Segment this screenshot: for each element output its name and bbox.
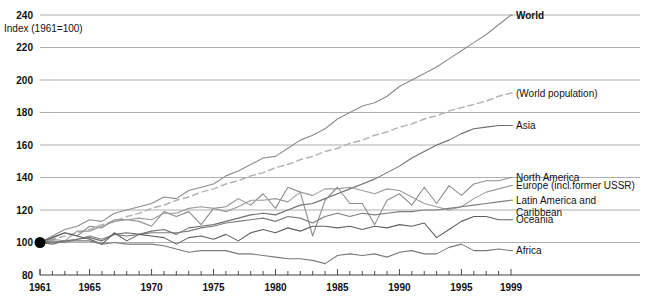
- line-chart-svg: 24022020018016014012010080 1961196519701…: [0, 0, 647, 307]
- x-tick-label-1980: 1980: [264, 282, 287, 293]
- series-line-world-population: [40, 93, 511, 243]
- y-tick-label-120: 120: [16, 205, 33, 216]
- series-label-africa: Africa: [516, 245, 542, 256]
- origin-dot-1961: [35, 237, 46, 248]
- series-label-latin-america-and-caribbean: Latin America and: [516, 195, 596, 206]
- series-label-europe-incl-former-ussr: Europe (incl.former USSR): [516, 180, 635, 191]
- series-labels-group: World(World population)AsiaNorth America…: [516, 10, 635, 257]
- y-tick-label-100: 100: [16, 237, 33, 248]
- y-tick-labels-group: 24022020018016014012010080: [16, 10, 33, 281]
- x-tick-label-1965: 1965: [78, 282, 101, 293]
- y-tick-label-220: 220: [16, 42, 33, 53]
- y-tick-label-80: 80: [22, 270, 34, 281]
- y-axis-caption-group: Index (1961=100): [4, 23, 83, 34]
- x-tick-label-1970: 1970: [140, 282, 163, 293]
- series-label-oceania: Oceania: [516, 214, 554, 225]
- x-tick-label-1961: 1961: [29, 282, 52, 293]
- series-line-asia: [40, 126, 511, 245]
- y-tick-label-140: 140: [16, 172, 33, 183]
- series-line-africa: [40, 241, 511, 264]
- series-line-oceania: [40, 217, 511, 245]
- y-tick-label-180: 180: [16, 107, 33, 118]
- chart-container: 24022020018016014012010080 1961196519701…: [0, 0, 647, 307]
- y-axis-caption: Index (1961=100): [4, 23, 83, 34]
- x-tick-label-1999: 1999: [500, 282, 523, 293]
- series-lines-group: [40, 15, 513, 264]
- origin-marker-group: [35, 237, 46, 248]
- x-tick-label-1990: 1990: [388, 282, 411, 293]
- y-tick-label-240: 240: [16, 10, 33, 21]
- x-tick-labels-group: 196119651970197519801985199019951999: [29, 282, 523, 293]
- y-tick-label-200: 200: [16, 75, 33, 86]
- series-label-world: World: [516, 10, 544, 21]
- y-tick-label-160: 160: [16, 140, 33, 151]
- x-tick-label-1985: 1985: [326, 282, 349, 293]
- series-line-europe-incl-former-ussr: [40, 186, 511, 243]
- x-tick-label-1975: 1975: [202, 282, 225, 293]
- x-tick-label-1995: 1995: [450, 282, 473, 293]
- series-label-asia: Asia: [516, 120, 536, 131]
- series-label-world-population: (World population): [516, 88, 598, 99]
- x-axis-group: [40, 269, 640, 275]
- cropped-footer-caption: [0, 300, 647, 307]
